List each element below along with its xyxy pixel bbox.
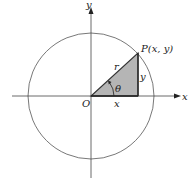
angle-label: θ <box>115 83 121 94</box>
diagram-canvas: y x O P(x, y) r θ x y <box>0 0 192 190</box>
point-label: P(x, y) <box>140 43 173 54</box>
horizontal-leg-label: x <box>114 98 120 109</box>
x-axis-arrow-icon <box>174 94 181 99</box>
origin-label: O <box>82 98 90 109</box>
vertical-leg-label: y <box>139 71 146 82</box>
x-axis-label: x <box>182 91 188 102</box>
y-axis-label: y <box>85 0 92 10</box>
